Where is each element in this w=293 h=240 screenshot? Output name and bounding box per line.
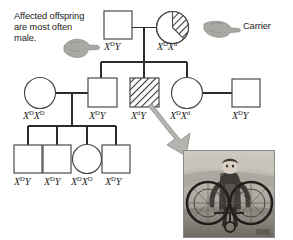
symbol-male-II-3-affected bbox=[130, 78, 159, 107]
symbol-male-II-2 bbox=[88, 78, 117, 107]
genotype-II-3: XdY bbox=[131, 110, 146, 121]
genotype-II-1: XDXD bbox=[23, 110, 45, 121]
genotype-I-2: XDXd bbox=[157, 41, 177, 52]
pedigree-diagram: Affected offspring are most often male. … bbox=[0, 0, 293, 240]
symbol-male-III-4 bbox=[102, 145, 130, 173]
genotype-I-1: XDY bbox=[104, 41, 120, 52]
symbol-male-III-2 bbox=[43, 145, 71, 173]
genotype-III-1: XDY bbox=[14, 176, 30, 187]
symbol-female-II-1 bbox=[25, 78, 56, 109]
symbol-male-II-5 bbox=[232, 79, 260, 107]
genotype-II-2: XDY bbox=[89, 110, 105, 121]
genotype-II-5: XDY bbox=[232, 110, 248, 121]
genotype-III-3: XDXD bbox=[71, 176, 93, 187]
symbol-female-I-2 bbox=[157, 12, 189, 44]
photo-wheelchair-boy bbox=[183, 150, 275, 238]
symbol-female-III-3 bbox=[73, 145, 102, 174]
pointing-hand-icon-right bbox=[204, 21, 240, 37]
genotype-III-4: XDY bbox=[105, 176, 121, 187]
symbol-female-II-4 bbox=[172, 78, 203, 109]
annotation-carrier-label: Carrier bbox=[243, 21, 271, 32]
symbol-male-III-1 bbox=[14, 145, 42, 173]
genotype-II-4: XDXd bbox=[170, 110, 190, 121]
annotation-affected-note: Affected offspring are most often male. bbox=[14, 11, 86, 45]
genotype-III-2: XDY bbox=[44, 176, 60, 187]
symbol-male-I-1 bbox=[104, 11, 132, 39]
